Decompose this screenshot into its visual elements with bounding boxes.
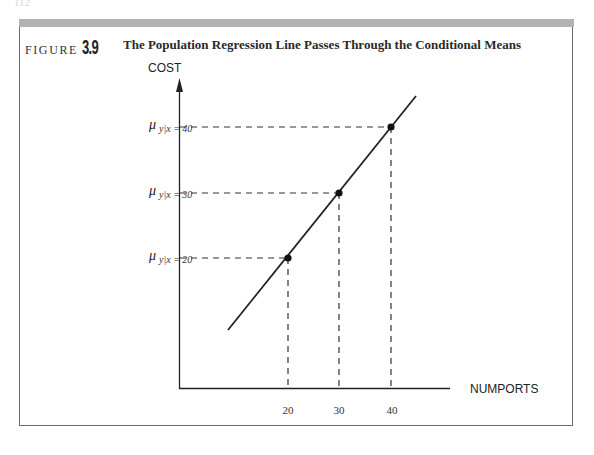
y-tick-label-40: μ y|x = 40 — [148, 117, 192, 134]
y-axis-arrow-icon — [176, 78, 183, 92]
y-tick-label-20: μ y|x = 20 — [148, 248, 192, 265]
svg-text:y|x = 40: y|x = 40 — [158, 123, 192, 134]
conditional-mean-point-40 — [387, 123, 394, 130]
svg-text:μ: μ — [148, 248, 156, 263]
svg-text:μ: μ — [148, 183, 156, 198]
conditional-mean-point-30 — [335, 189, 342, 196]
x-tick-label-30: 30 — [334, 404, 346, 416]
regression-chart: COST NUMPORTS μ y|x = 40 μ y|x = 30 μ y|… — [0, 0, 594, 455]
regression-line — [228, 96, 416, 330]
svg-text:μ: μ — [148, 117, 156, 132]
x-axis-title: NUMPORTS — [470, 382, 538, 396]
x-tick-label-40: 40 — [387, 404, 399, 416]
svg-text:y|x = 30: y|x = 30 — [158, 189, 192, 200]
svg-text:y|x = 20: y|x = 20 — [158, 254, 192, 265]
conditional-mean-point-20 — [284, 254, 291, 261]
y-tick-label-30: μ y|x = 30 — [148, 183, 192, 200]
x-tick-label-20: 20 — [283, 404, 295, 416]
y-axis-title: COST — [148, 61, 182, 75]
